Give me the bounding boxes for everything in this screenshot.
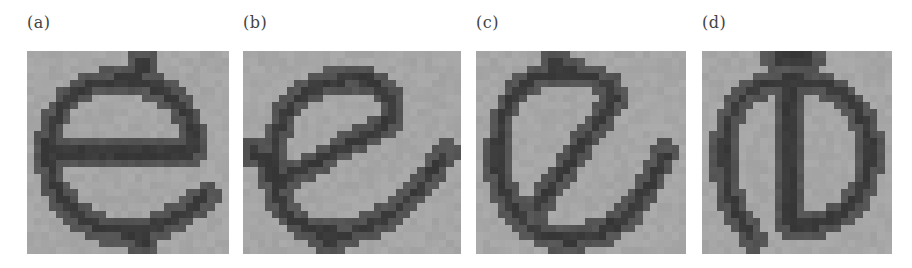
panel-image-c <box>476 51 686 254</box>
panel-image-d <box>702 51 892 254</box>
panel-image-a <box>27 51 229 254</box>
glyph-e-upright-image <box>27 51 229 254</box>
panel-label-c: (c) <box>476 13 499 32</box>
panel-image-b <box>243 51 461 254</box>
panel-label-d: (d) <box>702 13 726 32</box>
glyph-e-rotated-more-image <box>476 51 686 254</box>
panel-label-a: (a) <box>27 13 51 32</box>
glyph-e-vertical-image <box>702 51 892 254</box>
glyph-e-rotated-image <box>243 51 461 254</box>
panel-label-b: (b) <box>243 13 267 32</box>
